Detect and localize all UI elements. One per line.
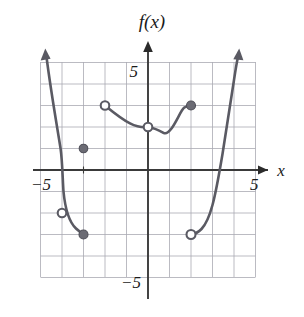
y-tick-label-positive-5: 5	[130, 62, 139, 81]
point-left-closed-endpoint	[79, 230, 88, 239]
point-middle-left-open	[101, 101, 110, 110]
graph-canvas: f(x) x 5 −5 −5 5	[0, 0, 304, 317]
point-middle-vertex-open	[144, 123, 153, 132]
function-graph-figure: f(x) x 5 −5 −5 5	[0, 0, 304, 317]
y-tick-label-negative-5: −5	[121, 273, 141, 292]
point-right-open-endpoint	[187, 230, 196, 239]
figure-background	[0, 0, 304, 317]
function-title-label: f(x)	[139, 11, 165, 33]
x-tick-label-positive-5: 5	[250, 175, 259, 194]
point-left-open-endpoint	[58, 209, 67, 218]
x-axis-label: x	[276, 161, 285, 180]
x-tick-label-negative-5: −5	[31, 175, 51, 194]
point-isolated-closed	[79, 144, 88, 153]
point-middle-right-closed	[187, 101, 196, 110]
